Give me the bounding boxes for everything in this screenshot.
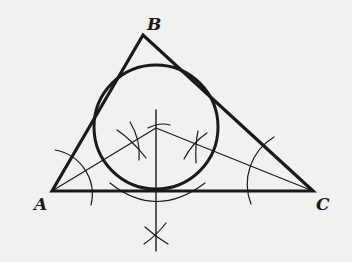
cross-arc-top1 <box>148 124 170 128</box>
vertex-label-a: A <box>34 194 47 214</box>
cross-arc-a1 <box>117 130 146 158</box>
bisector-a <box>52 128 156 191</box>
cross-arc-c2 <box>196 131 198 163</box>
bisector-c <box>156 128 313 191</box>
vertex-label-c: C <box>316 194 330 214</box>
vertex-label-b: B <box>147 14 161 34</box>
diagram-canvas: A B C <box>0 0 352 262</box>
construction-svg <box>0 0 352 262</box>
